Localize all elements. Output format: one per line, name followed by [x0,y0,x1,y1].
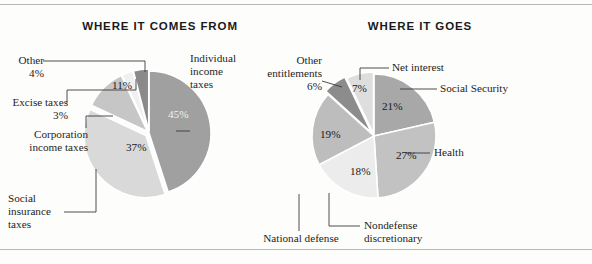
pie-chart-where-it-goes [0,0,592,264]
label-social-security: Social Security [440,82,550,95]
label-nondefense-discretionary: Nondefense discretionary [364,219,450,245]
pct-social-security: 21% [382,100,403,112]
pct-net-interest: 7% [352,82,367,94]
label-national-defense: National defense [254,232,348,245]
label-net-interest: Net interest [392,61,482,74]
label-other-entitlements: Other entitlements 6% [258,54,322,94]
figure-root: WHERE IT COMES FROM WHERE IT GOES Other … [0,0,592,264]
pct-health: 27% [396,149,417,161]
pct-national-defense: 19% [320,128,341,140]
pct-nondefense-discretionary: 18% [350,165,371,177]
label-health: Health [434,146,494,159]
